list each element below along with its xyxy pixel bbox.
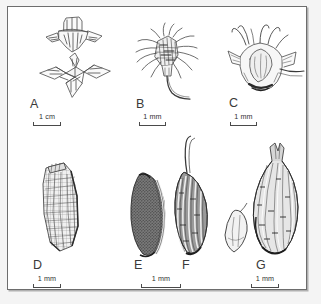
specimen-d-illustration [30,154,102,262]
panel-label-g: G [256,259,266,272]
scalebar-c-rule [230,121,257,126]
panel-label-d: D [33,259,43,272]
scalebar-c-tick-right [256,122,257,126]
panel-label-c: C [229,97,239,110]
panel-label-a: A [30,98,39,111]
specimen-a-illustration [26,11,126,103]
scalebar-c-tick-left [230,122,231,126]
scalebar-g-tick-left [251,284,252,288]
scalebar-b-label: 1 mm [139,113,166,120]
scalebar-ef-tick-left [141,284,142,288]
panel-label-e: E [134,259,143,272]
scalebar-d-rule [33,283,61,288]
scalebar-d-tick-left [33,284,34,288]
specimen-c-illustration [216,21,307,103]
figure-frame-border: A 1 cm [7,6,307,290]
scalebar-a-label: 1 cm [33,113,61,120]
scalebar-g-label: 1 mm [251,275,279,282]
scalebar-b-tick-left [139,122,140,126]
panel-label-b: B [136,98,145,111]
specimen-a-drawing [26,11,126,103]
scalebar-d-label: 1 mm [33,275,61,282]
scalebar-c: 1 mm [230,113,257,126]
scalebar-g: 1 mm [251,275,279,288]
specimen-g-drawing [220,139,307,262]
specimen-c-drawing [216,21,307,103]
specimen-f-drawing [164,135,220,262]
scalebar-b: 1 mm [139,113,166,126]
scalebar-ef-label: 1 mm [141,275,181,282]
scalebar-a: 1 cm [33,113,61,126]
scalebar-ef-rule [141,283,181,288]
scalebar-c-label: 1 mm [230,113,257,120]
panel-label-f: F [182,259,190,272]
scalebar-d: 1 mm [33,275,61,288]
scalebar-a-tick-right [60,122,61,126]
scalebar-g-rule [251,283,279,288]
scalebar-a-rule [33,121,61,126]
specimen-b-illustration [124,21,214,103]
specimen-b-drawing [124,21,214,103]
scalebar-d-tick-right [60,284,61,288]
scalebar-a-tick-left [33,122,34,126]
scalebar-g-tick-right [278,284,279,288]
figure-plate: A 1 cm [0,0,321,304]
specimen-g-illustration [220,139,307,262]
specimen-d-drawing [30,154,102,262]
scalebar-b-tick-right [165,122,166,126]
scalebar-ef: 1 mm [141,275,181,288]
specimen-f-illustration [164,135,220,262]
scalebar-b-rule [139,121,166,126]
scalebar-ef-tick-right [180,284,181,288]
